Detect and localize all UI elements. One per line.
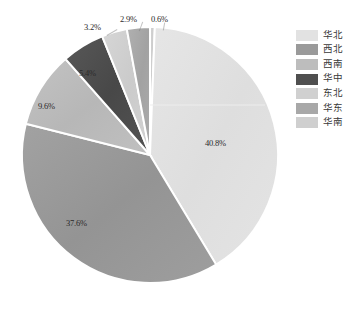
legend-item-label: 东北 <box>323 89 343 99</box>
legend-item[interactable]: 华南 <box>296 116 358 131</box>
legend-item[interactable]: 华中 <box>296 72 358 87</box>
legend-item[interactable]: 西南 <box>296 57 358 72</box>
legend-color-swatch <box>296 88 318 99</box>
legend-item[interactable]: 华东 <box>296 101 358 116</box>
slice-percentage-label: 3.2% <box>84 22 101 32</box>
legend-item[interactable]: 东北 <box>296 86 358 101</box>
slice-percentage-label: 40.8% <box>205 138 226 148</box>
legend-item-label: 华北 <box>323 31 343 41</box>
pie-slice-group <box>22 27 278 283</box>
legend-item[interactable]: 华北 <box>296 28 358 43</box>
legend-item-label: 西北 <box>323 45 343 55</box>
slice-percentage-label: 9.6% <box>38 101 55 111</box>
slice-percentage-label: 2.9% <box>120 14 137 24</box>
legend-item[interactable]: 西北 <box>296 43 358 58</box>
legend-color-swatch <box>296 59 318 70</box>
slice-percentage-label: 5.4% <box>79 68 96 78</box>
legend-item-label: 华中 <box>323 74 343 84</box>
slice-percentage-label: 0.6% <box>151 14 168 24</box>
slice-percentage-label: 37.6% <box>66 218 87 228</box>
legend-color-swatch <box>296 103 318 114</box>
legend-item-label: 华南 <box>323 118 343 128</box>
pie-chart-figure: 40.8%37.6%9.6%5.4%3.2%2.9%0.6% 华北西北西南华中东… <box>0 0 359 311</box>
legend-item-label: 华东 <box>323 104 343 114</box>
legend-color-swatch <box>296 30 318 41</box>
legend-item-label: 西南 <box>323 60 343 70</box>
legend-color-swatch <box>296 44 318 55</box>
legend-color-swatch <box>296 117 318 128</box>
legend-color-swatch <box>296 74 318 85</box>
chart-legend: 华北西北西南华中东北华东华南 <box>296 28 358 130</box>
